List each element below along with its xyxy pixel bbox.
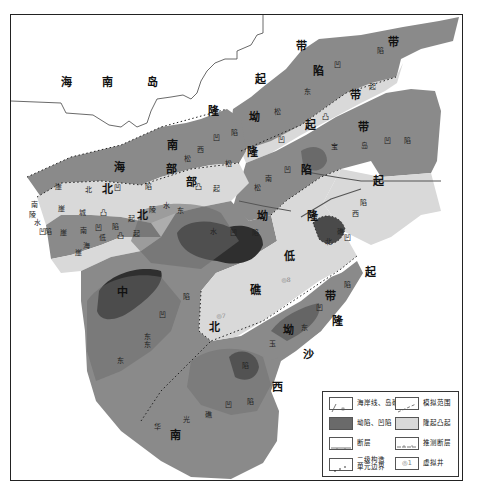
subregion-label: 水 — [163, 203, 170, 210]
subregion-label: 凸 — [100, 210, 107, 217]
legend-label: 模拟范围 — [423, 400, 451, 407]
subregion-label: 起 — [213, 186, 220, 193]
subregion-label: 松 — [184, 156, 191, 163]
subregion-label: 礁 — [337, 229, 344, 236]
region-label: 礁 — [250, 285, 261, 296]
region-label: 带 — [296, 41, 307, 52]
subregion-label: 陷 — [242, 363, 249, 370]
subregion-label: 玉 — [269, 341, 276, 348]
legend-label: 虚拟井 — [423, 460, 444, 467]
region-label: 坳 — [257, 211, 268, 222]
region-label: 部 — [166, 164, 177, 175]
subregion-label: 起 — [128, 216, 135, 223]
region-label: 岛 — [147, 77, 158, 88]
subregion-label: 陷 — [145, 184, 152, 191]
subregion-label: 凹 — [344, 235, 351, 242]
region-label: 带 — [325, 291, 336, 302]
subregion-label: 北 — [85, 187, 92, 194]
subregion-label: 岛 — [361, 143, 368, 150]
subregion-label: 东 — [144, 334, 151, 341]
subregion-label: 陷 — [344, 282, 351, 289]
region-label: 隆 — [208, 106, 219, 117]
subregion-label: 城 — [79, 210, 86, 217]
sim-range-swatch-icon — [395, 397, 419, 410]
subregion-label: 陷 — [231, 130, 238, 137]
region-label: 隆 — [332, 316, 343, 327]
subregion-label: 东 — [177, 208, 184, 215]
region-label: 南 — [167, 140, 178, 151]
subregion-label: 凹 — [316, 305, 323, 312]
region-label: 隆 — [247, 147, 258, 158]
region-label: 坳 — [283, 325, 294, 336]
subregion-label: 凸 — [322, 114, 329, 121]
subregion-label: 东 — [301, 325, 308, 332]
region-label: 海 — [61, 77, 72, 88]
subregion-label: 光 — [183, 417, 190, 424]
legend: 海岸线、岛礁 模拟范围 坳陷、凹陷 隆起凸起 断层 推测断层 二级构造 单元边界… — [322, 391, 459, 477]
subregion-label: 陷 — [252, 230, 259, 237]
subregion-label: 东 — [117, 358, 124, 365]
subregion-label: 陷 — [377, 48, 384, 55]
unit-boundary-swatch-icon — [329, 458, 353, 471]
subregion-label: 东 — [144, 342, 151, 349]
subregion-label: 凹 — [284, 167, 291, 174]
fault-swatch-icon — [329, 437, 353, 450]
legend-label: 二级构造 单元边界 — [357, 457, 385, 472]
legend-item-coastline: 海岸线、岛礁 — [329, 397, 399, 410]
subregion-label: 水 — [34, 220, 41, 227]
subregion-label: 松 — [274, 109, 281, 116]
subregion-label: 凹 — [213, 135, 220, 142]
subregion-label: 南 — [80, 228, 87, 235]
uplift-swatch-icon — [395, 417, 419, 430]
subregion-label: 崖 — [60, 230, 67, 237]
region-label: 坳 — [249, 112, 260, 123]
region-label: 沙 — [303, 349, 314, 360]
region-label: 南 — [170, 430, 181, 441]
legend-item-virtual-well: ◎1 虚拟井 — [395, 457, 444, 470]
legend-label: 推测断层 — [423, 440, 451, 447]
virtual-well-swatch-icon: ◎1 — [395, 457, 419, 470]
subregion-label: 南 — [265, 176, 272, 183]
region-label: 带 — [358, 122, 369, 133]
region-label: 起 — [365, 267, 376, 278]
subregion-label: 凹 — [159, 312, 166, 319]
legend-item-inferred-fault: 推测断层 — [395, 437, 451, 450]
virtual-well-marker: ◎7 — [216, 313, 225, 319]
subregion-label: 陷 — [360, 200, 367, 207]
subregion-label: 海 — [83, 243, 90, 250]
legend-item-uplift: 隆起凸起 — [395, 417, 451, 430]
subregion-label: 东 — [304, 89, 311, 96]
subregion-label: 水 — [210, 229, 217, 236]
subregion-label: 陵 — [149, 207, 156, 214]
subregion-label: 崖 — [55, 184, 62, 191]
subregion-label: 西 — [352, 211, 359, 218]
coastline-swatch-icon — [329, 397, 353, 410]
subregion-label: 凹 — [384, 138, 391, 145]
subregion-label: 陷 — [247, 399, 254, 406]
legend-label: 海岸线、岛礁 — [357, 400, 399, 407]
subregion-label: 低 — [99, 235, 106, 242]
virtual-well-marker: ◎8 — [281, 277, 290, 283]
subregion-label: 松 — [225, 161, 232, 168]
subregion-label: 北 — [325, 239, 332, 246]
subregion-label: 礁 — [205, 412, 212, 419]
subregion-label: 陷 — [45, 229, 52, 236]
region-label: 西 — [272, 382, 283, 393]
legend-label: 坳陷、凹陷 — [357, 420, 392, 427]
region-label: 带 — [350, 90, 361, 101]
region-label: 陷 — [301, 165, 312, 176]
legend-item-fault: 断层 — [329, 437, 371, 450]
subregion-label: 松 — [254, 185, 261, 192]
region-label: 陷 — [313, 66, 324, 77]
legend-item-unit-boundary: 二级构造 单元边界 — [329, 457, 385, 472]
legend-label: 隆起凸起 — [423, 420, 451, 427]
subregion-label: 崖 — [58, 206, 65, 213]
subregion-label: 凹 — [225, 402, 232, 409]
subregion-label: 陷 — [183, 294, 190, 301]
region-label: 起 — [255, 74, 266, 85]
region-label: 隆 — [307, 211, 318, 222]
region-label: 带 — [388, 37, 399, 48]
subregion-label: 凹 — [95, 225, 102, 232]
region-label: 北 — [137, 210, 148, 221]
legend-item-depression: 坳陷、凹陷 — [329, 417, 392, 430]
